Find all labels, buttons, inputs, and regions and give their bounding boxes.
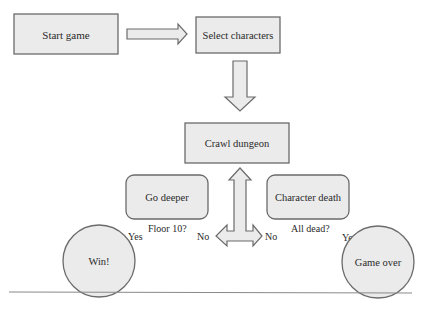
node-select-characters: Select characters (196, 17, 280, 53)
node-game-over-label: Game over (355, 257, 402, 268)
node-win-label: Win! (88, 256, 109, 267)
floor-yes-label: Yes (128, 231, 143, 242)
node-go-deeper: Go deeper (126, 175, 208, 219)
floor-10-question-label: Floor 10? (148, 223, 187, 234)
node-select-characters-label: Select characters (203, 30, 274, 41)
node-start-game-label: Start game (42, 29, 89, 41)
node-start-game: Start game (14, 14, 118, 54)
node-go-deeper-label: Go deeper (145, 192, 189, 203)
node-win: Win! (63, 225, 135, 297)
dead-no-label: No (265, 231, 277, 242)
node-crawl-dungeon: Crawl dungeon (185, 123, 289, 163)
flowchart-canvas: Start game Select characters Crawl dunge… (0, 0, 422, 314)
node-character-death-label: Character death (275, 192, 342, 203)
arrow-right-icon (127, 24, 187, 44)
floor-no-label: No (197, 231, 209, 242)
node-game-over: Game over (342, 226, 414, 298)
arrow-down-icon (225, 61, 255, 111)
arrow-up-left-right-icon (216, 168, 262, 246)
node-crawl-dungeon-label: Crawl dungeon (205, 138, 270, 149)
all-dead-question-label: All dead? (291, 223, 330, 234)
bottom-rule (9, 292, 412, 293)
node-character-death: Character death (267, 175, 349, 219)
